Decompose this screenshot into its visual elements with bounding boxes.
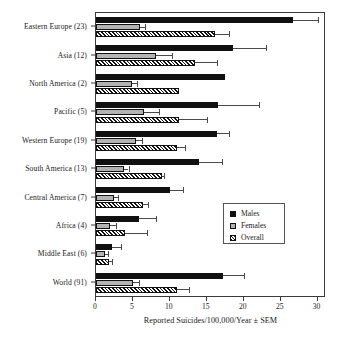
y-axis-label: South America (13) [25,164,87,173]
error-bar-cap [266,45,267,51]
x-axis-tick [132,297,133,301]
y-axis-tick [91,54,95,55]
error-bar-line [215,34,229,35]
bar-overall [96,60,195,66]
y-axis-label: Central America (7) [24,192,87,201]
error-bar-line [177,289,189,290]
bar-overall [96,287,177,293]
x-axis-tick [95,297,96,301]
x-axis-tick-label: 20 [239,302,247,311]
y-axis-label: Pacific (5) [54,107,87,116]
error-bar-cap [189,287,190,293]
bar-row [96,244,325,250]
x-axis-tick-label: 30 [313,302,321,311]
x-axis-tick [206,297,207,301]
bar-row [96,159,325,165]
error-bar-cap [142,138,143,144]
bar-overall [96,230,125,236]
bar-row [96,17,325,23]
error-bar-line [293,20,318,21]
error-bar-line [177,147,186,148]
y-axis-category-labels: Eastern Europe (23)Asia (12)North Americ… [0,12,95,297]
error-bar-cap [172,53,173,59]
y-axis-label: Africa (4) [56,221,87,230]
error-bar-cap [145,24,146,30]
bar-females [96,138,136,144]
bar-males [96,244,112,250]
error-bar-cap [116,223,117,229]
bar-overall [96,145,177,151]
bar-females [96,81,132,87]
y-axis-tick [91,196,95,197]
bar-row [96,187,325,193]
error-bar-cap [156,216,157,222]
x-axis-tick-label: 25 [276,302,284,311]
bar-row [96,88,325,94]
error-bar-line [156,55,172,56]
bar-row [96,74,325,80]
bar-row [96,24,325,30]
bar-row [96,53,325,59]
y-axis-tick [91,111,95,112]
error-bar-cap [159,109,160,115]
bar-row [96,138,325,144]
chart-legend: Males Females Overall [223,203,285,244]
legend-label-females: Females [241,222,266,230]
bar-row [96,60,325,66]
bar-row [96,202,325,208]
error-bar-cap [244,273,245,279]
legend-item-males: Males [230,208,284,219]
bar-females [96,166,124,172]
bar-group [96,102,325,122]
x-axis-tick-label: 5 [130,302,134,311]
bar-females [96,251,105,257]
bar-overall [96,259,109,265]
y-axis-tick [91,253,95,254]
x-axis-tick-label: 15 [202,302,210,311]
bar-row [96,145,325,151]
y-axis-tick [91,225,95,226]
bar-males [96,131,217,137]
bar-males [96,17,293,23]
error-bar-line [112,247,121,248]
x-axis-tick [243,297,244,301]
x-axis-title: Reported Suicides/100,000/Year ± SEM [95,316,326,325]
error-bar-line [195,62,217,63]
y-axis-label: Asia (12) [58,50,87,59]
bar-row [96,216,325,222]
bar-row [96,280,325,286]
legend-swatch-males-icon [230,211,236,217]
bar-row [96,166,325,172]
bar-row [96,81,325,87]
legend-swatch-overall-icon [230,235,236,241]
bar-overall [96,88,179,94]
error-bar-cap [129,166,130,172]
bar-groups [96,13,325,297]
bar-males [96,187,170,193]
x-axis-tick [280,297,281,301]
legend-swatch-females-icon [230,223,236,229]
bar-overall [96,202,143,208]
error-bar-cap [229,131,230,137]
y-axis-label: Eastern Europe (23) [24,22,87,31]
bar-females [96,24,140,30]
bar-females [96,223,110,229]
bar-row [96,195,325,201]
error-bar-line [144,112,159,113]
bar-row [96,223,325,229]
bar-group [96,159,325,179]
bar-row [96,173,325,179]
y-axis-label: World (91) [53,277,87,286]
error-bar-line [125,233,147,234]
error-bar-cap [259,102,260,108]
bar-males [96,159,199,165]
error-bar-cap [164,173,165,179]
error-bar-cap [121,244,122,250]
bar-males [96,45,233,51]
legend-item-females: Females [230,220,284,231]
bar-row [96,259,325,265]
bar-males [96,273,223,279]
x-axis-tick-label: 0 [93,302,97,311]
y-axis-tick [91,168,95,169]
bar-row [96,287,325,293]
